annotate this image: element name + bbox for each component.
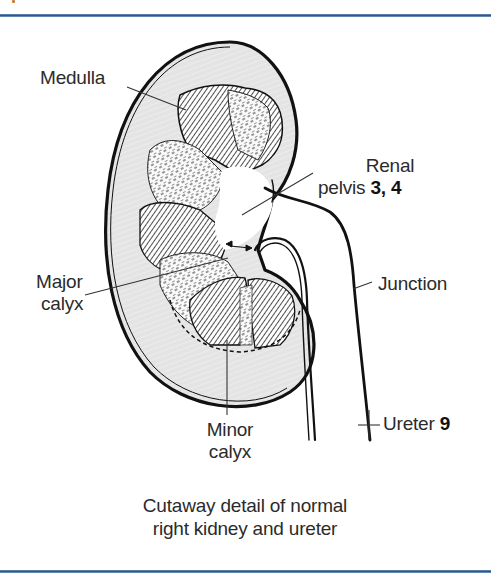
label-renal-pelvis-line2: pelvis 3, 4 <box>303 177 443 199</box>
label-minor-calyx-line2: calyx <box>190 441 270 463</box>
label-medulla: Medulla <box>40 67 105 89</box>
label-major-calyx: Major calyx <box>36 271 83 315</box>
label-ureter-ref: 9 <box>440 413 450 434</box>
renal-pelvis <box>215 166 273 250</box>
label-junction: Junction <box>378 273 447 295</box>
label-renal-pelvis-word: pelvis <box>318 177 365 198</box>
label-minor-calyx: Minor calyx <box>190 419 270 463</box>
label-major-calyx-line2: calyx <box>36 293 83 315</box>
label-ureter-word: Ureter <box>383 413 435 434</box>
label-ureter: Ureter 9 <box>383 413 450 435</box>
figure-caption: Cutaway detail of normal right kidney an… <box>100 494 390 540</box>
caption-line-1: Cutaway detail of normal <box>100 494 390 517</box>
label-major-calyx-line1: Major <box>36 271 83 293</box>
label-renal-pelvis-line1: Renal <box>303 155 443 177</box>
label-renal-pelvis: Renal pelvis 3, 4 <box>303 155 443 199</box>
label-renal-pelvis-ref: 3, 4 <box>370 177 401 198</box>
caption-line-2: right kidney and ureter <box>100 517 390 540</box>
label-minor-calyx-line1: Minor <box>190 419 270 441</box>
